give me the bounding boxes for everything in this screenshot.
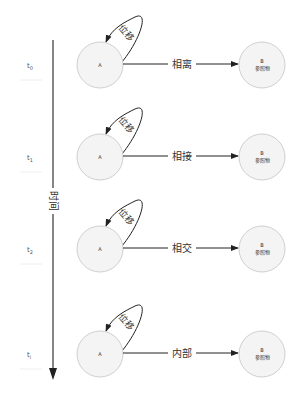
timeline-axis-label: 时间 — [48, 191, 60, 211]
node-b-label: 参照物 — [255, 157, 270, 164]
relation-label: 相离 — [172, 58, 192, 70]
timeline-arrowhead-icon — [49, 368, 57, 380]
relation-label: 相交 — [172, 242, 192, 254]
row-t1: t1 位移 A 相接 B 参照物 — [20, 108, 285, 180]
node-b-label: 参照物 — [255, 354, 270, 361]
relation-label: 内部 — [172, 347, 192, 359]
relation-label: 相接 — [172, 150, 192, 162]
node-b-label: 参照物 — [255, 65, 270, 72]
node-b-letter: B — [260, 150, 264, 156]
node-b-letter: B — [260, 58, 264, 64]
node-b-label: 参照物 — [255, 249, 270, 256]
node-a-label: A — [98, 351, 102, 357]
node-a-label: A — [98, 246, 102, 252]
row-t0: t0 位移 A 相离 B 参照物 — [20, 16, 285, 88]
node-a-label: A — [98, 62, 102, 68]
time-label: t2 — [27, 246, 33, 255]
node-a-label: A — [98, 154, 102, 160]
timeline: 时间 — [47, 40, 60, 380]
diagram-canvas: 时间 t0 位移 A 相离 B 参照物 t1 位移 A 相接 B 参照物 t2 … — [0, 0, 306, 399]
node-b-letter: B — [260, 242, 264, 248]
node-b-letter: B — [260, 347, 264, 353]
time-label: t1 — [27, 154, 33, 163]
time-label: t0 — [27, 62, 33, 71]
row-ti: ti 位移 A 内部 B 参照物 — [20, 305, 285, 377]
time-label: ti — [27, 351, 31, 360]
